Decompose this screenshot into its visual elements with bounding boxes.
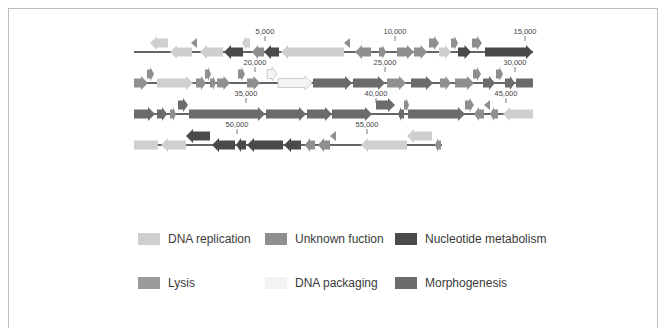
gene-arrow-unknown-function xyxy=(490,107,498,121)
scale-label: 5,000 xyxy=(256,27,275,36)
scale-label: 40,000 xyxy=(365,89,388,98)
gene-arrow-unknown-function xyxy=(170,107,176,121)
gene-arrow-unknown-function xyxy=(344,38,350,48)
gene-arrow-unknown-function xyxy=(455,76,474,90)
gene-arrow-unknown-function xyxy=(238,67,245,81)
gene-arrow-unknown-function xyxy=(397,45,414,59)
gene-arrow-dna-replication xyxy=(134,141,158,150)
gene-arrow-unknown-function xyxy=(355,45,371,59)
gene-arrow-dna-replication xyxy=(170,45,192,59)
gene-arrow-morphogenesis xyxy=(411,76,433,90)
gene-arrow-unknown-function xyxy=(318,138,330,152)
genome-row: 20,00025,00030,000 xyxy=(134,58,533,90)
scale-label: 50,000 xyxy=(226,120,249,129)
gene-arrow-morphogenesis xyxy=(134,107,155,121)
gene-arrow-nucleotide-metabolism xyxy=(264,45,279,59)
gene-arrow-unknown-function xyxy=(465,98,474,112)
gene-arrow-unknown-function xyxy=(134,76,148,90)
gene-arrow-unknown-function xyxy=(472,36,482,50)
gene-arrow-unknown-function xyxy=(247,76,260,90)
genome-row: 50,00055,000 xyxy=(134,120,442,152)
gene-arrow-unknown-function xyxy=(435,138,441,152)
gene-arrow-nucleotide-metabolism xyxy=(284,138,301,152)
gene-arrow-morphogenesis xyxy=(178,98,188,112)
gene-arrow-unknown-function xyxy=(440,76,451,90)
gene-arrow-nucleotide-metabolism xyxy=(247,138,283,152)
gene-arrow-morphogenesis xyxy=(266,107,306,121)
gene-arrow-morphogenesis xyxy=(157,107,167,121)
gene-arrow-morphogenesis xyxy=(189,107,265,121)
gene-arrow-unknown-function xyxy=(210,76,216,90)
gene-arrow-morphogenesis xyxy=(483,76,495,90)
gene-arrow-unknown-function xyxy=(387,76,406,90)
scale-label: 25,000 xyxy=(374,58,397,67)
gene-arrow-dna-replication xyxy=(150,36,168,50)
scale-label: 35,000 xyxy=(235,89,258,98)
gene-arrow-morphogenesis xyxy=(376,98,395,112)
gene-arrow-unknown-function xyxy=(474,107,484,121)
scale-label: 45,000 xyxy=(495,89,518,98)
gene-arrow-morphogenesis xyxy=(353,76,385,90)
gene-arrow-dna-replication xyxy=(361,138,407,152)
gene-arrow-nucleotide-metabolism xyxy=(458,45,471,59)
scale-label: 30,000 xyxy=(504,58,527,67)
gene-arrow-unknown-function xyxy=(191,38,197,48)
gene-arrow-unknown-function xyxy=(196,76,206,90)
gene-arrow-nucleotide-metabolism xyxy=(224,45,243,59)
scale-label: 20,000 xyxy=(244,58,267,67)
genome-row: 5,00010,00015,000 xyxy=(134,27,536,59)
scale-label: 15,000 xyxy=(514,27,537,36)
gene-arrow-dna-replication xyxy=(161,138,186,152)
gene-arrow-unknown-function xyxy=(496,67,503,81)
gene-arrow-morphogenesis xyxy=(408,107,465,121)
gene-arrow-unknown-function xyxy=(217,76,230,90)
gene-arrow-dna-replication xyxy=(439,45,451,59)
gene-arrow-morphogenesis xyxy=(516,79,533,88)
gene-arrow-unknown-function xyxy=(451,36,458,50)
scale-label: 55,000 xyxy=(356,120,379,129)
gene-arrow-nucleotide-metabolism xyxy=(485,45,533,59)
gene-arrow-dna-replication xyxy=(281,45,344,59)
gene-arrow-morphogenesis xyxy=(332,107,372,121)
gene-arrow-nucleotide-metabolism xyxy=(186,129,210,143)
gene-arrow-dna-replication xyxy=(503,107,533,121)
genome-row: 35,00040,00045,000 xyxy=(134,89,533,121)
gene-arrow-morphogenesis xyxy=(505,76,515,90)
gene-arrow-nucleotide-metabolism xyxy=(236,138,246,152)
gene-arrow-dna-replication xyxy=(157,76,193,90)
gene-arrow-unknown-function xyxy=(414,45,427,59)
gene-arrow-unknown-function xyxy=(484,100,490,110)
gene-arrow-unknown-function xyxy=(379,45,386,59)
gene-arrow-dna-replication xyxy=(200,45,223,59)
gene-arrow-dna-packaging xyxy=(278,76,312,90)
scale-label: 10,000 xyxy=(384,27,407,36)
gene-arrow-unknown-function xyxy=(429,36,439,50)
gene-arrow-dna-packaging xyxy=(267,67,277,81)
gene-arrow-morphogenesis xyxy=(307,107,332,121)
gene-arrow-morphogenesis xyxy=(313,76,352,90)
gene-arrow-unknown-function xyxy=(473,67,481,81)
gene-arrow-dna-replication xyxy=(407,129,432,143)
gene-arrow-unknown-function xyxy=(147,67,154,81)
gene-arrow-unknown-function xyxy=(252,45,264,59)
gene-arrow-nucleotide-metabolism xyxy=(212,138,235,152)
gene-arrow-unknown-function xyxy=(330,131,336,141)
gene-arrow-dna-replication xyxy=(242,36,250,50)
gene-arrow-unknown-function xyxy=(305,138,315,152)
gene-arrow-morphogenesis xyxy=(398,107,404,121)
